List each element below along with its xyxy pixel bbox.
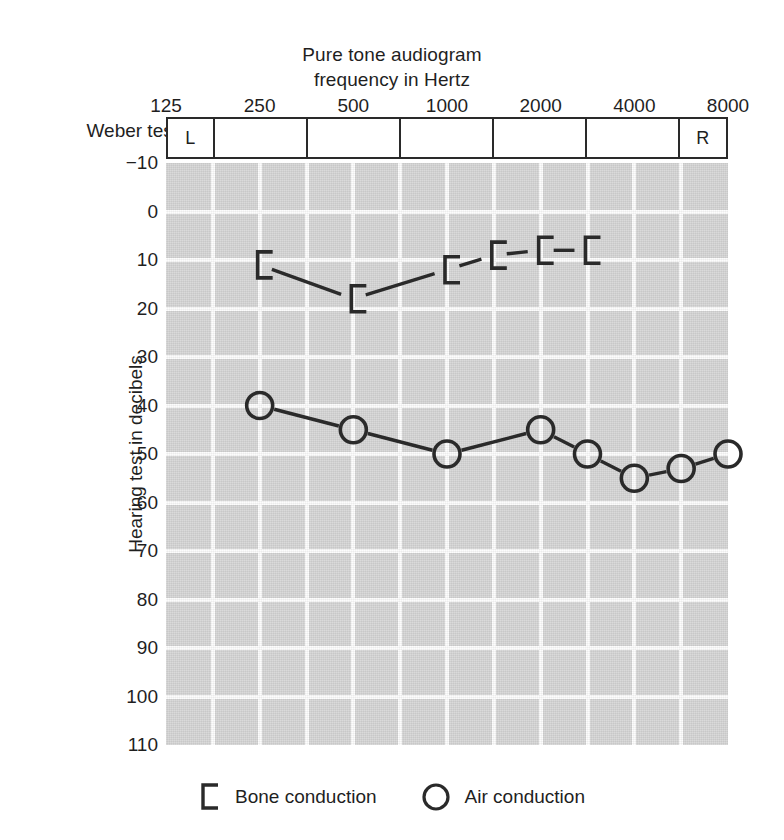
- connector-line: [462, 434, 527, 451]
- weber-cell-1[interactable]: [215, 119, 308, 157]
- air-conduction-point: [528, 417, 554, 443]
- legend-item-bone-conduction: Bone conduction: [199, 782, 377, 812]
- weber-cell-5[interactable]: [587, 119, 680, 157]
- y-tick-0: 0: [147, 201, 158, 223]
- air-conduction-point: [434, 441, 460, 467]
- weber-test-label: Weber test: [86, 120, 178, 142]
- connector-line: [554, 437, 574, 447]
- chart-title-line-2: frequency in Hertz: [0, 67, 784, 92]
- air-conduction-marker-icon: [421, 782, 451, 812]
- connector-line: [272, 269, 341, 294]
- bone-conduction-point: [351, 286, 366, 312]
- weber-cell-2[interactable]: [308, 119, 401, 157]
- weber-cell-r[interactable]: R: [680, 119, 727, 157]
- weber-cell-4[interactable]: [494, 119, 587, 157]
- bone-conduction-point: [258, 252, 273, 278]
- legend-label-bone-conduction: Bone conduction: [235, 786, 377, 808]
- weber-cell-l[interactable]: L: [168, 119, 215, 157]
- air-conduction-point: [668, 456, 694, 482]
- audiogram-chart: Pure tone audiogram frequency in Hertz 1…: [0, 0, 784, 840]
- series-bone-conduction: [258, 237, 601, 311]
- weber-test-strip: LR: [166, 117, 728, 159]
- bone-conduction-point: [492, 242, 507, 268]
- air-conduction-point: [621, 465, 647, 491]
- connector-line: [368, 434, 433, 451]
- x-tick-1000: 1000: [426, 95, 468, 117]
- bone-conduction-point: [445, 257, 460, 283]
- plot-area: [166, 163, 728, 745]
- connector-line: [601, 461, 621, 471]
- series-air-conduction: [247, 393, 741, 492]
- y-tick-neg10: −10: [126, 152, 158, 174]
- x-tick-500: 500: [337, 95, 369, 117]
- x-tick-125: 125: [150, 95, 182, 117]
- bone-conduction-point: [539, 237, 554, 263]
- x-tick-250: 250: [244, 95, 276, 117]
- chart-title: Pure tone audiogram frequency in Hertz: [0, 42, 784, 92]
- legend-label-air-conduction: Air conduction: [465, 786, 585, 808]
- air-conduction-point: [340, 417, 366, 443]
- legend-item-air-conduction: Air conduction: [421, 782, 585, 812]
- y-tick-100: 100: [126, 686, 158, 708]
- connector-line: [274, 409, 339, 426]
- connector-line: [366, 274, 435, 295]
- connector-line: [695, 458, 713, 464]
- y-axis-title: Hearing test in decibels: [125, 244, 147, 664]
- weber-cell-3[interactable]: [401, 119, 494, 157]
- chart-legend: Bone conduction Air conduction: [0, 782, 784, 812]
- air-conduction-point: [247, 393, 273, 419]
- x-tick-4000: 4000: [613, 95, 655, 117]
- air-conduction-point: [715, 441, 741, 467]
- bone-conduction-point: [585, 237, 600, 263]
- connector-line: [459, 259, 481, 266]
- x-tick-8000: 8000: [707, 95, 749, 117]
- connector-line: [507, 252, 528, 254]
- connector-line: [649, 472, 666, 476]
- data-series-layer: [166, 163, 728, 745]
- bone-conduction-marker-icon: [199, 782, 221, 812]
- air-conduction-point: [574, 441, 600, 467]
- x-tick-2000: 2000: [520, 95, 562, 117]
- y-axis-title-wrap: Hearing test in decibels: [56, 163, 86, 745]
- chart-title-line-1: Pure tone audiogram: [0, 42, 784, 67]
- y-tick-110: 110: [128, 734, 158, 756]
